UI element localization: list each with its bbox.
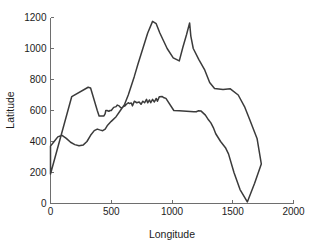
boundary-data-path	[51, 21, 262, 202]
chart-plot-svg: 0500100015002000020040060080010001200 Lo…	[0, 0, 317, 242]
chart-figure: 0500100015002000020040060080010001200 Lo…	[0, 0, 317, 242]
y-tick-label: 1200	[24, 12, 47, 23]
x-tick-label: 2000	[282, 206, 305, 217]
x-axis-title: Longitude	[149, 228, 195, 240]
y-tick-label: 400	[30, 136, 47, 147]
y-tick-label: 200	[30, 167, 47, 178]
y-tick-label: 600	[30, 105, 47, 116]
y-tick-label: 800	[30, 74, 47, 85]
x-tick-label: 500	[103, 206, 120, 217]
x-tick-label: 1500	[222, 206, 245, 217]
y-axis-title: Latitude	[4, 91, 16, 129]
y-tick-label: 0	[41, 198, 47, 209]
y-tick-label: 1000	[24, 43, 47, 54]
x-tick-label: 0	[48, 206, 54, 217]
x-tick-label: 1000	[161, 206, 184, 217]
